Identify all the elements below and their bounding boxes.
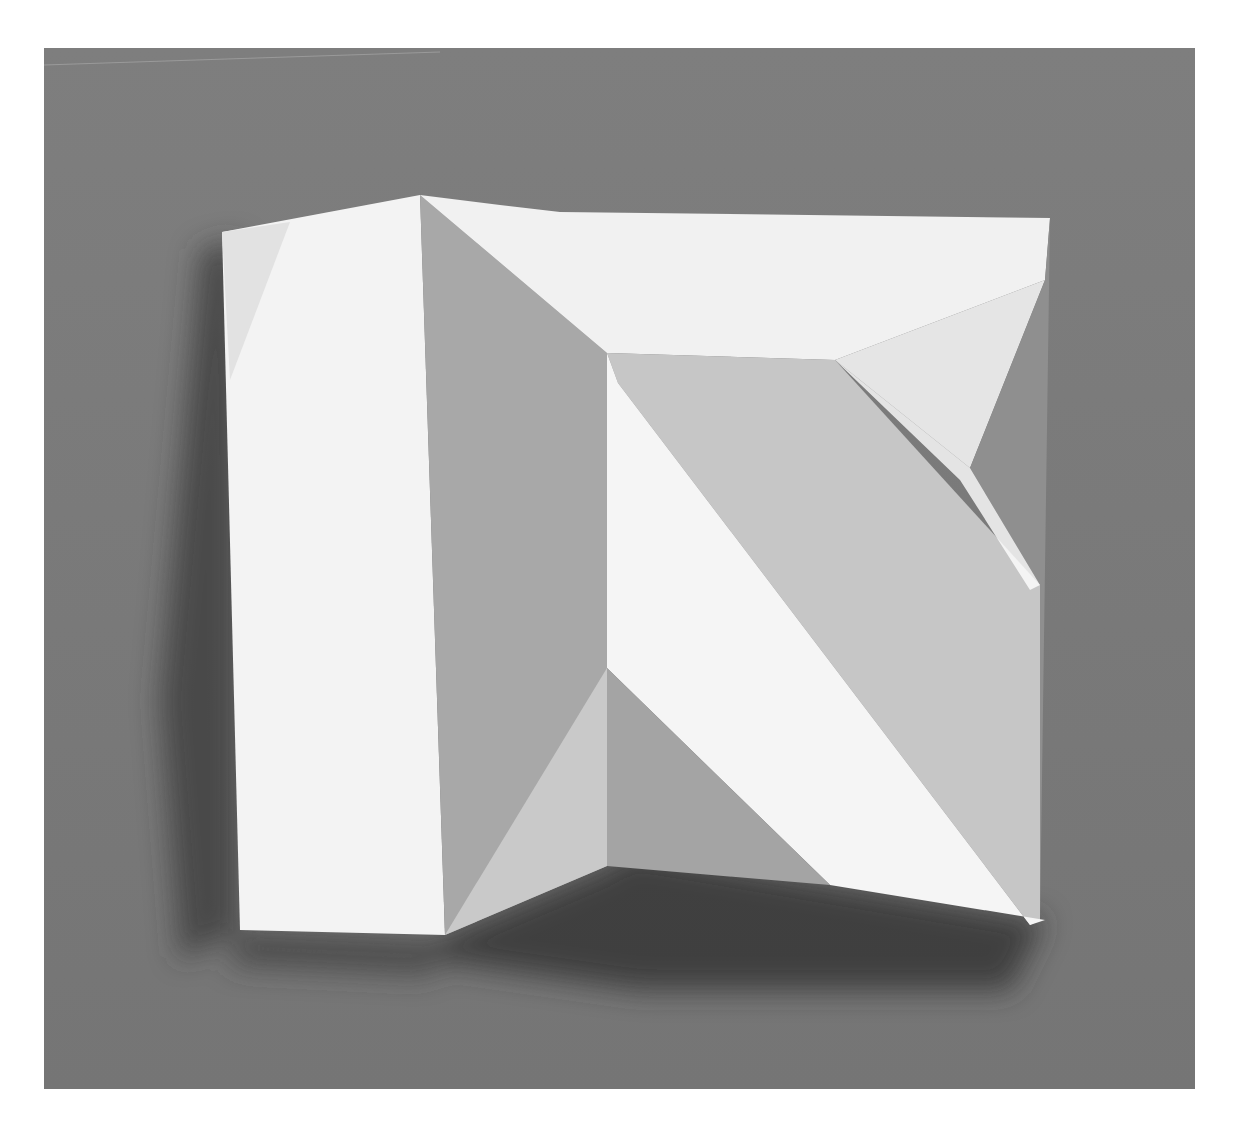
photograph [44,48,1195,1089]
folded-paper-sculpture [44,48,1195,1089]
